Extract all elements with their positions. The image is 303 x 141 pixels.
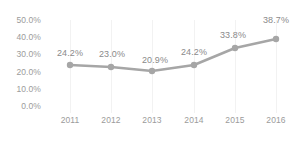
data-point-2012 <box>108 64 114 70</box>
data-point-2016 <box>273 36 279 42</box>
y-tick-label-0: 0.0% <box>21 101 41 111</box>
x-tick-label-2013: 2013 <box>142 115 161 125</box>
y-tick-label-30: 30.0% <box>16 49 41 59</box>
data-label-2015: 33.8% <box>220 30 246 40</box>
data-label-2013: 20.9% <box>142 55 168 65</box>
x-tick-label-2016: 2016 <box>266 115 285 125</box>
data-point-2011 <box>67 62 73 68</box>
data-point-2013 <box>149 68 155 74</box>
data-point-2015 <box>232 45 238 51</box>
data-label-2011: 24.2% <box>57 48 83 58</box>
data-label-2016: 38.7% <box>263 15 289 25</box>
y-tick-label-50: 50.0% <box>16 15 41 25</box>
x-tick-label-2012: 2012 <box>101 115 120 125</box>
x-tick-label-2015: 2015 <box>225 115 244 125</box>
data-label-2012: 23.0% <box>99 49 125 59</box>
y-tick-label-10: 10.0% <box>16 84 41 94</box>
data-point-2014 <box>191 62 197 68</box>
x-tick-label-2011: 2011 <box>61 115 80 125</box>
x-tick-label-2014: 2014 <box>184 115 203 125</box>
x-axis: 2011 2012 2013 2014 2015 2016 <box>0 115 303 131</box>
y-tick-label-40: 40.0% <box>16 32 41 42</box>
y-tick-label-20: 20.0% <box>16 67 41 77</box>
data-label-2014: 24.2% <box>181 47 207 57</box>
line-chart: 50.0% 40.0% 30.0% 20.0% 10.0% 0.0% 24.2%… <box>0 0 303 141</box>
